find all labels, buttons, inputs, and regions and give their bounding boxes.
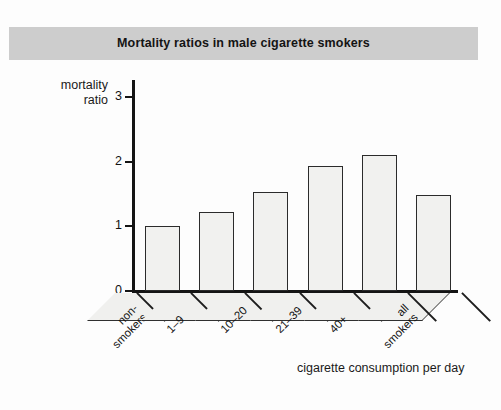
y-axis-tick-mark — [125, 96, 133, 98]
y-axis-tick-mark — [125, 225, 133, 227]
y-axis-tick-mark — [125, 161, 133, 163]
bar — [308, 166, 343, 291]
bar — [253, 192, 288, 291]
category-tick — [461, 292, 490, 321]
x-axis-title: cigarette consumption per day — [297, 361, 464, 375]
y-axis-tick-label: 2 — [100, 155, 122, 167]
y-axis-tick-label: 3 — [100, 90, 122, 102]
bar — [362, 155, 397, 291]
bar — [199, 212, 234, 291]
plot-area: 0123 non-smokers1–910–2021–3940+allsmoke… — [0, 0, 501, 410]
y-axis-tick-label: 1 — [100, 219, 122, 231]
bar — [416, 195, 451, 291]
y-axis-line — [132, 80, 135, 292]
y-axis-tick-mark — [125, 290, 133, 292]
chart-figure: Mortality ratios in male cigarette smoke… — [0, 0, 501, 410]
bar — [145, 226, 180, 291]
